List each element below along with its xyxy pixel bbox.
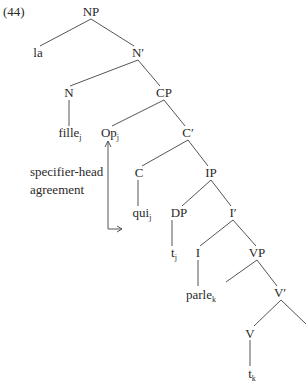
node-np: NP [83, 5, 100, 19]
node-v: V [245, 327, 254, 341]
node-t-j: tj [171, 246, 177, 265]
annotation-line2: agreement [30, 183, 84, 197]
node-i-bar: I′ [229, 206, 236, 220]
node-i: I [196, 246, 200, 260]
node-dp: DP [171, 206, 188, 220]
node-v-bar: V′ [274, 286, 286, 300]
example-number: (44) [3, 5, 25, 19]
node-c: C [135, 166, 144, 180]
node-qui: quij [133, 206, 152, 225]
node-vp: VP [249, 246, 266, 260]
node-fille: fillej [58, 126, 81, 145]
node-cp: CP [156, 86, 172, 100]
node-c-bar: C′ [182, 126, 194, 140]
node-n: N [64, 86, 73, 100]
agreement-arrow [108, 141, 122, 229]
node-la: la [33, 46, 42, 60]
node-op: Opj [101, 126, 119, 145]
syntax-tree-diagram: (44) NP la N′ N CP fillej Opj C′ specifi… [0, 0, 308, 386]
annotation-line1: specifier-head [30, 165, 103, 179]
node-n-bar: N′ [132, 46, 144, 60]
node-ip: IP [205, 166, 217, 180]
node-t-k: tk [248, 367, 256, 386]
node-parle: parlek [186, 288, 216, 307]
